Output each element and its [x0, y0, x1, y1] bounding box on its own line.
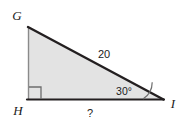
hypotenuse-length-label: 20 [98, 48, 110, 60]
vertex-label-i: I [170, 96, 176, 111]
angle-label-i: 30° [116, 85, 132, 97]
vertex-label-g: G [12, 8, 22, 23]
vertex-label-h: H [12, 103, 23, 118]
base-length-label: ? [87, 107, 93, 119]
geometry-figure: G H I 20 ? 30° [0, 0, 183, 124]
triangle-diagram-svg: G H I 20 ? 30° [0, 0, 183, 124]
